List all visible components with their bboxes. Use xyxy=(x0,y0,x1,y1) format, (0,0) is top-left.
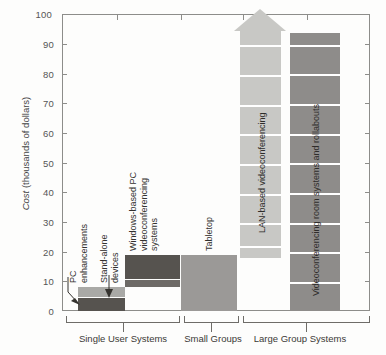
y-tick-label-60: 60 xyxy=(28,128,54,139)
y-tick-label-50: 50 xyxy=(28,158,54,169)
y-tick-label-80: 80 xyxy=(28,69,54,80)
y-axis-title: Cost (thousands of dollars) xyxy=(20,69,31,239)
y-tick-label-20: 20 xyxy=(28,247,54,258)
y-tick-label-70: 70 xyxy=(28,98,54,109)
bar-pc-enhancements xyxy=(78,287,125,311)
x-tick-mark-4 xyxy=(307,14,308,20)
band-line xyxy=(290,74,340,76)
bracket-stem-large-group xyxy=(306,323,307,332)
y-axis-title-rest: (thousands of dollars) xyxy=(20,97,31,191)
y-tick-label-0: 0 xyxy=(28,306,54,317)
band-line xyxy=(240,75,281,77)
bar-segment-windows-upper xyxy=(125,255,180,279)
bracket-stem-small-groups xyxy=(211,323,212,332)
y-tick-label-90: 90 xyxy=(28,39,54,50)
band-line xyxy=(240,105,281,107)
bar-segment-standalone-devices xyxy=(78,287,125,297)
band-line xyxy=(290,45,340,47)
bar-tabletop xyxy=(181,255,237,311)
bar-windows-based-pc xyxy=(125,255,180,287)
bar-caption-windows-based-pc: Windows-based PC videoconferencing syste… xyxy=(128,172,160,251)
bracket-large-group-systems xyxy=(243,316,370,323)
bracket-single-user-systems xyxy=(66,316,180,323)
bar-lan-overflow-arrowhead xyxy=(234,9,286,31)
bar-segment-pc-enhancements xyxy=(78,298,125,311)
bracket-stem-single-user xyxy=(123,323,124,332)
y-tick-label-100: 100 xyxy=(26,9,52,20)
bar-caption-tabletop: Tabletop xyxy=(204,217,215,251)
y-tick-label-30: 30 xyxy=(28,217,54,228)
band-line xyxy=(240,45,281,47)
x-tick-mark-1 xyxy=(117,14,118,20)
group-label-single-user-systems: Single User Systems xyxy=(79,333,167,344)
bar-caption-lan-based: LAN-based videoconferencing xyxy=(257,112,268,233)
bar-segment-windows-lower xyxy=(125,280,180,287)
x-tick-mark-2 xyxy=(181,14,182,20)
y-tick-label-10: 10 xyxy=(28,276,54,287)
y-tick-label-40: 40 xyxy=(28,187,54,198)
group-label-small-groups: Small Groups xyxy=(184,333,242,344)
group-label-large-group-systems: Large Group Systems xyxy=(254,333,346,344)
bar-caption-room-systems: Videoconferencing room systems and rolla… xyxy=(311,104,322,296)
bracket-small-groups xyxy=(184,316,239,323)
bar-caption-stand-alone-devices: Stand-alone devices xyxy=(99,234,120,283)
chart-canvas: Cost (thousands of dollars) 0 10 20 30 4… xyxy=(0,0,386,355)
band-line xyxy=(240,246,281,248)
bar-caption-pc-enhancements: PC enhancements xyxy=(68,224,89,283)
